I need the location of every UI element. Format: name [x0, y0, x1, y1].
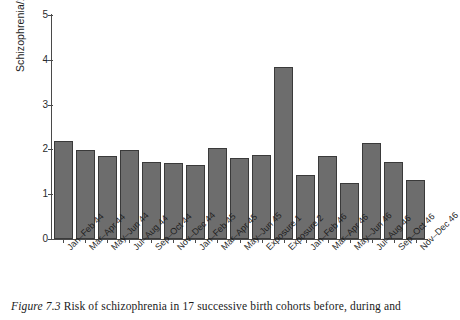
figure-caption: Figure 7.3 Risk of schizophrenia in 17 s…: [11, 299, 427, 313]
figure-number: Figure 7.3: [11, 300, 61, 312]
caption-text: Risk of schizophrenia in 17 successive b…: [61, 300, 401, 312]
